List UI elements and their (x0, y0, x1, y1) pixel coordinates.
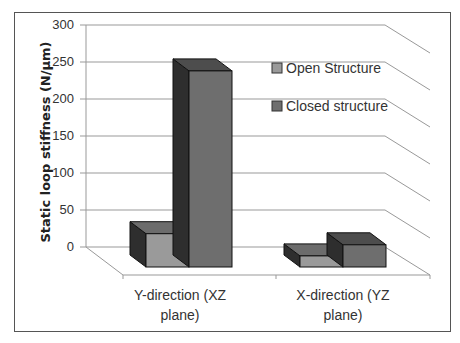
side-gridline (385, 210, 430, 238)
legend: Open StructureClosed structure (272, 60, 388, 114)
x-axis-categories: Y-direction (XZplane)X-direction (YZplan… (134, 287, 390, 323)
y-tick-label: 150 (52, 128, 74, 143)
y-tick-label: 0 (67, 239, 74, 254)
y-axis-label: Static loop stiffness (N/µm) (38, 41, 53, 242)
y-tick-label: 50 (60, 202, 74, 217)
y-tick-label: 300 (52, 17, 74, 32)
chart-3d-bar: 050100150200250300 Static loop stiffness… (0, 0, 460, 343)
y-tick-label: 100 (52, 165, 74, 180)
legend-swatch (272, 101, 282, 111)
category-label: plane) (161, 307, 200, 323)
side-gridline (385, 25, 430, 53)
legend-label: Open Structure (286, 60, 381, 76)
category-label: plane) (324, 307, 363, 323)
bars (130, 59, 386, 267)
bar (173, 59, 232, 267)
side-gridline (385, 62, 430, 90)
category-label: X-direction (YZ (296, 287, 390, 303)
side-gridline (385, 247, 430, 275)
y-axis-ticks: 050100150200250300 (52, 17, 74, 254)
side-gridline (385, 99, 430, 127)
bar (327, 233, 386, 267)
y-tick-label: 250 (52, 54, 74, 69)
y-tick-label: 200 (52, 91, 74, 106)
side-gridline (385, 136, 430, 164)
legend-swatch (272, 63, 282, 73)
legend-label: Closed structure (286, 98, 388, 114)
side-gridline (385, 173, 430, 201)
category-label: Y-direction (XZ (134, 287, 227, 303)
